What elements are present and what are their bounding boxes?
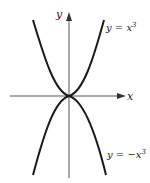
upper-curve-label-base: y = x [105,22,132,33]
x-axis-arrow-icon [117,93,126,99]
y-axis-label: y [55,8,63,21]
x-axis-label: x [127,90,134,103]
lower-curve-label: y = −x3 [106,148,146,160]
lower-curve-label-base: y = −x [106,149,142,160]
upper-curve-label-exp: 3 [132,21,137,29]
upper-curve-label: y = x3 [105,21,137,33]
lower-curve-label-exp: 3 [141,148,146,156]
graph-figure: y x y = x3 y = −x3 [0,0,150,183]
y-axis-arrow-icon [66,12,72,21]
